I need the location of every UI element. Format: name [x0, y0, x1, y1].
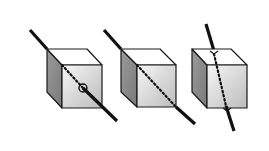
cube-3	[192, 24, 247, 131]
exiting-line	[176, 107, 195, 124]
entering-line	[104, 30, 121, 49]
diagram-canvas	[0, 0, 269, 151]
cube-front-face	[207, 65, 247, 108]
entering-line	[206, 24, 214, 51]
exiting-line	[226, 106, 234, 131]
cubes-diagram	[0, 0, 269, 151]
cube-1	[30, 30, 117, 121]
cube-2	[104, 30, 195, 124]
entering-line	[30, 30, 47, 49]
